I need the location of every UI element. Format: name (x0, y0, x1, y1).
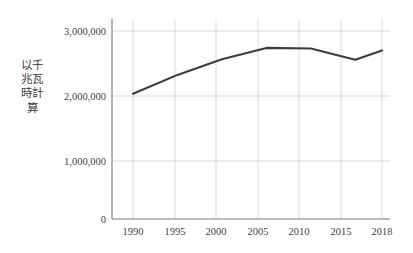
horizontal-gridlines (112, 31, 390, 161)
y-tick-label-1000000: 1,000,000 (64, 156, 106, 167)
y-tick-label-0: 0 (101, 214, 106, 225)
x-tick-labels: 1990 1995 2000 2005 2010 2015 2018 (123, 226, 393, 237)
x-tick-label-2000: 2000 (206, 226, 227, 237)
x-tick-label-2010: 2010 (289, 226, 310, 237)
chart-container: 以千兆瓦時計算 3,000,000 2,000,000 1,000,000 (0, 0, 413, 253)
y-tick-labels: 3,000,000 2,000,000 1,000,000 0 (64, 26, 106, 225)
y-tick-label-2000000: 2,000,000 (64, 91, 106, 102)
x-tick-label-2005: 2005 (248, 226, 269, 237)
x-tick-label-2018: 2018 (372, 226, 393, 237)
data-series-line (133, 48, 382, 94)
x-tick-label-2015: 2015 (331, 226, 352, 237)
x-tick-label-1990: 1990 (123, 226, 144, 237)
vertical-gridlines (133, 19, 382, 219)
x-tick-label-1995: 1995 (165, 226, 186, 237)
line-chart-plot: 3,000,000 2,000,000 1,000,000 0 1990 199… (0, 0, 413, 253)
y-tick-label-3000000: 3,000,000 (64, 26, 106, 37)
